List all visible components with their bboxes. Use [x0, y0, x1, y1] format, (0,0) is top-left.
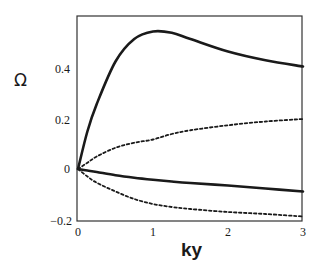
x-tick-3: 3 — [300, 225, 306, 239]
chart: Ω ky 0.4 0.2 0 −0.2 0 1 2 3 — [0, 0, 324, 276]
x-tick-1: 1 — [150, 225, 156, 239]
y-tick-0.2: 0.2 — [55, 113, 70, 127]
x-axis-label: ky — [181, 239, 203, 260]
x-tick-0: 0 — [75, 225, 81, 239]
plot-frame — [77, 16, 302, 221]
x-tick-2: 2 — [225, 225, 231, 239]
series-upper-solid — [78, 31, 303, 169]
y-tick-0.4: 0.4 — [55, 62, 70, 76]
y-tick-neg0.2: −0.2 — [50, 214, 72, 228]
series-layer — [78, 31, 303, 216]
series-upper-dotted — [78, 119, 303, 169]
series-lower-solid — [78, 169, 303, 192]
y-tick-0: 0 — [64, 162, 70, 176]
y-axis-label: Ω — [14, 70, 27, 90]
series-lower-dotted — [78, 169, 303, 217]
